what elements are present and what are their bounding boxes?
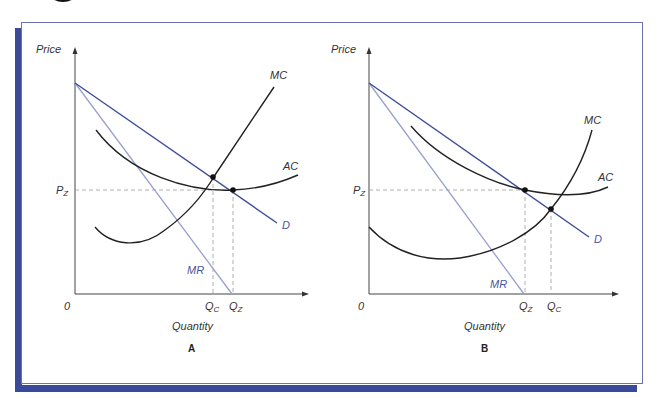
mr-curve	[369, 83, 524, 294]
y-axis-label: Price	[331, 43, 356, 55]
x-axis-label: Quantity	[464, 320, 506, 332]
d-label: D	[594, 233, 602, 245]
mr-label: MR	[187, 264, 204, 276]
demand-curve	[75, 83, 277, 223]
x-axis-label: Quantity	[172, 320, 214, 332]
ac-d-intersection-dot	[230, 187, 236, 193]
mc-label: MC	[584, 114, 601, 126]
mr-curve	[75, 83, 232, 294]
mc-d-intersection-dot	[210, 174, 216, 180]
economics-diagram: Price 0 PZ MC AC D MR QC QZ Quantity A P…	[0, 0, 658, 402]
ac-curve	[96, 130, 298, 190]
pz-label: PZ	[56, 184, 69, 198]
ac-curve	[411, 126, 608, 195]
origin-label: 0	[358, 300, 365, 312]
panel-label: A	[188, 343, 195, 354]
ac-d-intersection-dot	[522, 187, 528, 193]
qc-label: QC	[205, 300, 220, 314]
ac-label: AC	[597, 171, 613, 183]
panel-label: B	[481, 343, 488, 354]
demand-curve	[369, 83, 589, 237]
panel-a: Price 0 PZ MC AC D MR QC QZ Quantity A	[36, 43, 306, 354]
qz-label: QZ	[229, 300, 244, 314]
mc-curve	[95, 87, 274, 243]
origin-label: 0	[64, 300, 71, 312]
ac-label: AC	[282, 160, 298, 172]
mc-d-intersection-dot	[548, 206, 554, 212]
qc-label: QC	[547, 300, 562, 314]
mr-label: MR	[490, 278, 507, 290]
panel-b: Price 0 PZ MC AC D MR QZ QC Quantity B	[331, 43, 616, 354]
pz-label: PZ	[353, 184, 366, 198]
y-axis-label: Price	[36, 43, 61, 55]
qz-label: QZ	[519, 300, 534, 314]
d-label: D	[282, 219, 290, 231]
mc-label: MC	[270, 69, 287, 81]
